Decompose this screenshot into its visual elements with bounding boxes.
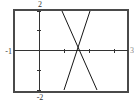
- x-max-label: 3: [130, 46, 134, 55]
- x-min-label: -1: [5, 47, 12, 56]
- plot-area: 2 -2 -1 3: [0, 0, 134, 101]
- y-max-label: 2: [38, 0, 42, 9]
- y-min-label: -2: [37, 93, 44, 101]
- graph-window: 2 -2 -1 3: [0, 0, 134, 101]
